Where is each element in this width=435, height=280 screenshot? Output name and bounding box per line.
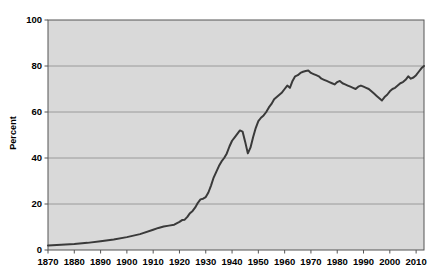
- y-axis-tick-label: 0: [4, 244, 42, 255]
- y-axis-tick-label: 100: [4, 14, 42, 25]
- chart-plot-area: [0, 0, 435, 280]
- y-axis-tick-label: 40: [4, 152, 42, 163]
- chart-container: Percent 02040608010018701880189019001910…: [0, 0, 435, 280]
- y-axis-tick-label: 60: [4, 106, 42, 117]
- y-axis-title: Percent: [8, 111, 18, 155]
- x-axis-tick-label: 2010: [399, 256, 433, 267]
- y-axis-tick-label: 80: [4, 60, 42, 71]
- y-axis-tick-label: 20: [4, 198, 42, 209]
